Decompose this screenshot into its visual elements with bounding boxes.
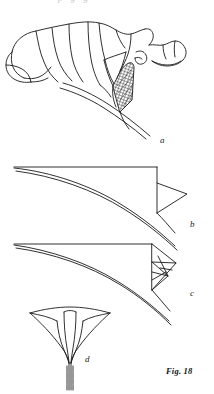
panel-c-artwork bbox=[14, 244, 176, 325]
panel-label-b: b bbox=[190, 220, 195, 229]
panel-a-artwork bbox=[6, 22, 186, 139]
figure-caption: Fig. 18 bbox=[166, 366, 192, 376]
figure-plate: p g g bbox=[0, 0, 214, 394]
figure-artwork bbox=[0, 0, 214, 394]
panel-label-a: a bbox=[160, 136, 165, 145]
panel-label-d: d bbox=[85, 355, 90, 364]
panel-b-artwork bbox=[14, 167, 187, 250]
panel-d-artwork bbox=[30, 307, 110, 390]
panel-label-c: c bbox=[190, 289, 194, 298]
